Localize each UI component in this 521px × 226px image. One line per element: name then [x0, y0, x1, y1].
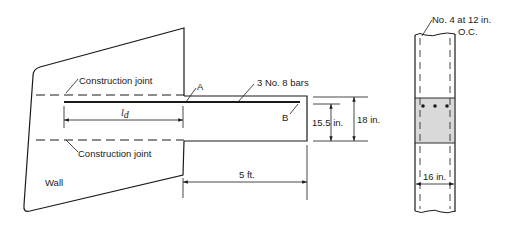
effective-depth-label: 15.5 in.	[312, 117, 343, 128]
construction-joint-upper-leader	[66, 79, 78, 93]
construction-joint-upper-label: Construction joint	[79, 75, 153, 86]
rebar-dot-3	[445, 104, 449, 108]
stirrup-leader	[422, 20, 432, 36]
development-length-label: ld	[121, 107, 130, 120]
construction-joint-lower-leader	[66, 140, 78, 152]
development-length-subscript: d	[124, 109, 130, 120]
section-view: No. 4 at 12 in. O.C. 16 in.	[415, 14, 491, 213]
column-bottom-break	[415, 210, 455, 213]
rebar-dot-1	[421, 104, 425, 108]
point-b-leader	[290, 104, 298, 114]
bars-label: 3 No. 8 bars	[257, 77, 309, 88]
construction-joint-lower-label: Construction joint	[78, 148, 152, 159]
point-a-label: A	[197, 81, 204, 92]
column-top-break	[415, 33, 455, 36]
projection-dimension-label: 5 ft.	[239, 169, 255, 180]
point-a-leader	[186, 88, 196, 102]
section-width-label: 16 in.	[423, 171, 446, 182]
elevation-labels: Construction joint Construction joint Wa…	[45, 75, 380, 188]
stirrup-label-line2: O.C.	[458, 26, 478, 37]
total-depth-label: 18 in.	[357, 114, 380, 125]
rebar-dot-2	[433, 104, 437, 108]
bars-leader	[238, 84, 254, 102]
point-b-label: B	[282, 112, 288, 123]
stirrup-label-line1: No. 4 at 12 in.	[432, 14, 491, 25]
wall-label: Wall	[45, 177, 63, 188]
cantilever-beam-diagram: Construction joint Construction joint Wa…	[0, 0, 521, 226]
